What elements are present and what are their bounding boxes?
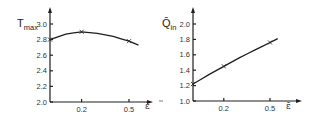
- y-tick-label: 1.8: [180, 35, 190, 44]
- y-axis-arrow-icon: [191, 7, 195, 13]
- y-tick-label: 2.4: [37, 66, 47, 75]
- chart-tmax: 2.02.22.42.62.83.00.20.5Tmaxε̄: [17, 7, 153, 114]
- x-tick-label: 0.2: [219, 104, 229, 113]
- data-curve: [193, 39, 278, 84]
- x-tick-label: 0.5: [124, 105, 134, 114]
- y-axis-arrow-icon: [48, 7, 52, 13]
- y-tick-label: 2.2: [37, 82, 47, 91]
- y-axis-title: Q̄in: [162, 17, 176, 32]
- chart-qin: 1.01.21.41.61.82.00.20.5Q̄inε̄: [162, 7, 302, 113]
- x-tick-label: 0.2: [76, 105, 86, 114]
- x-axis-arrow-icon: [296, 99, 302, 103]
- figure: 2.02.22.42.62.83.00.20.5Tmaxε̄ 1.01.21.4…: [0, 0, 318, 120]
- y-tick-label: 2.6: [37, 51, 47, 60]
- y-tick-label: 2.0: [180, 20, 190, 29]
- y-axis-title: Tmax: [17, 17, 38, 32]
- x-axis-title: ε̄: [286, 101, 291, 111]
- y-tick-label: 2.8: [37, 35, 47, 44]
- y-tick-label: 1.2: [180, 81, 190, 90]
- y-axis-title-sub: max: [24, 23, 38, 32]
- y-tick-label: 1.0: [180, 97, 190, 106]
- y-tick-label: 2.0: [37, 98, 47, 107]
- x-marker-icon: [222, 64, 226, 68]
- data-curve: [50, 32, 138, 45]
- y-tick-label: 1.6: [180, 50, 190, 59]
- y-axis-title-sub: in: [171, 23, 177, 32]
- x-tick-label: 0.5: [265, 104, 275, 113]
- x-axis-title: ε̄: [145, 101, 150, 111]
- y-tick-label: 3.0: [37, 20, 47, 29]
- y-tick-label: 1.4: [180, 66, 190, 75]
